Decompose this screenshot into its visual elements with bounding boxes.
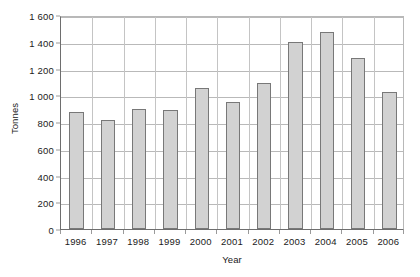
x-axis-tick-label: 1998 [127,236,149,247]
y-axis-title-text: Tonnes [10,102,21,133]
x-axis-tick-mark [373,230,374,234]
x-axis-tick-label: 2005 [346,236,368,247]
bar [195,88,209,229]
bar [382,92,396,229]
y-axis-tick-labels: 02004006008001 0001 2001 4001 600 [22,16,54,230]
bar [351,58,365,229]
x-axis-tick-label: 2004 [315,236,337,247]
x-axis-tick-mark [403,230,404,234]
x-axis-tick-label: 2000 [190,236,212,247]
x-axis-tick-mark [91,230,92,234]
x-axis-tick-mark [216,230,217,234]
y-axis-tick-label: 400 [38,171,54,182]
bar [257,83,271,229]
y-axis-tick-label: 600 [38,144,54,155]
x-axis-tick-label: 2001 [221,236,243,247]
bar [320,32,334,229]
x-axis-tick-labels: 1996199719981999200020012002200320042005… [60,236,404,250]
bar-chart: Tonnes 02004006008001 0001 2001 4001 600… [0,0,420,277]
x-axis-tick-mark [341,230,342,234]
x-axis-tick-mark [154,230,155,234]
y-axis-tick-label: 1 200 [29,64,54,75]
x-axis-tick-mark [310,230,311,234]
x-axis-tick-label: 1996 [65,236,87,247]
x-axis-tick-mark [60,230,61,234]
bar [101,120,115,229]
y-axis-tick-label: 1 400 [29,37,54,48]
bar [132,109,146,229]
x-axis-tick-label: 2003 [284,236,306,247]
x-axis-tick-label: 2006 [377,236,399,247]
y-axis-tick-label: 200 [38,198,54,209]
x-axis-tick-mark [248,230,249,234]
bar [226,102,240,229]
y-axis-tick-label: 800 [38,118,54,129]
x-axis-tick-mark [123,230,124,234]
bars-layer [61,17,403,229]
y-axis-tick-label: 0 [49,225,54,236]
x-axis-title: Year [60,254,404,265]
y-axis-tick-label: 1 600 [29,11,54,22]
x-axis-tick-label: 1997 [96,236,118,247]
x-axis-tick-mark [185,230,186,234]
bar [69,112,83,229]
bar [288,42,302,229]
y-axis-tick-label: 1 000 [29,91,54,102]
x-axis-tick-label: 1999 [158,236,180,247]
x-axis-tick-marks [60,230,404,234]
x-axis-tick-mark [279,230,280,234]
plot-area [60,16,404,230]
x-axis-tick-label: 2002 [252,236,274,247]
bar [163,110,177,229]
